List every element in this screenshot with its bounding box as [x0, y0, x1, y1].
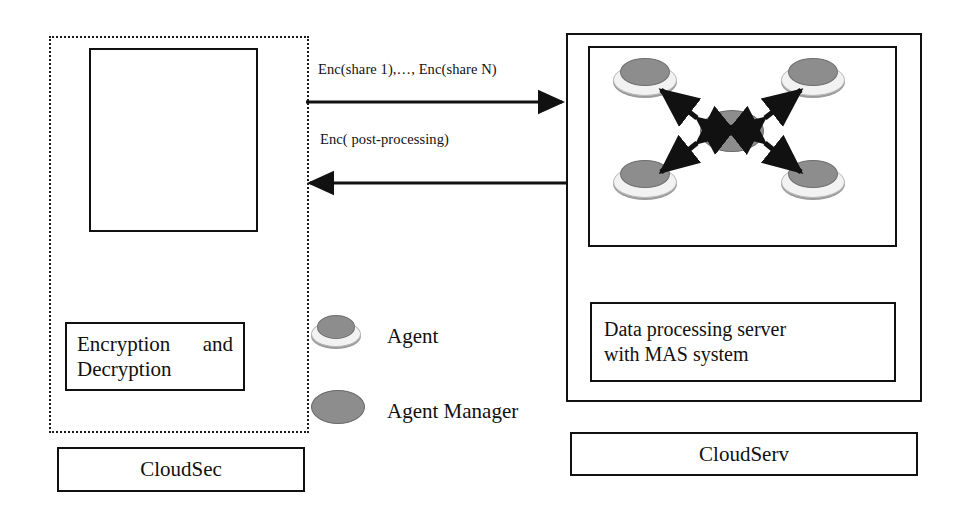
agent-icon-bottom-left	[613, 160, 675, 196]
cloudsec-client-box	[89, 48, 258, 232]
agent-top-disc	[788, 160, 837, 188]
agent-manager-disc	[311, 390, 365, 424]
cloudsec-caption-box: CloudSec	[57, 447, 305, 492]
encryption-decryption-line1: Encryption and	[77, 332, 233, 357]
data-processing-server-box: Data processing server with MAS system	[590, 302, 896, 382]
architecture-diagram: Encryption and Decryption CloudSec Data …	[0, 0, 959, 517]
cloudsec-caption-label: CloudSec	[59, 457, 303, 482]
encryption-decryption-box: Encryption and Decryption	[65, 322, 245, 391]
encryption-decryption-text: Encryption and Decryption	[67, 332, 243, 382]
cloudserv-caption-label: CloudServ	[572, 442, 916, 467]
agent-top-disc	[788, 58, 837, 86]
agent-icon-top-right	[781, 58, 843, 94]
agent-top-disc	[620, 160, 669, 188]
legend-agent-manager-icon	[311, 390, 363, 422]
agent-icon-top-left	[613, 58, 675, 94]
cloudserv-caption-box: CloudServ	[570, 432, 918, 476]
data-processing-server-line2: with MAS system	[604, 343, 748, 365]
encryption-decryption-line2: Decryption	[77, 357, 233, 382]
agent-top-disc	[317, 315, 355, 339]
legend-agent-icon	[311, 315, 359, 345]
arrow-label-to-server: Enc(share 1),…, Enc(share N)	[318, 61, 497, 78]
data-processing-server-text: Data processing server with MAS system	[592, 317, 894, 367]
agent-icon-bottom-right	[781, 160, 843, 196]
agent-top-disc	[620, 58, 669, 86]
data-processing-server-line1: Data processing server	[604, 318, 786, 340]
arrow-label-to-client: Enc( post-processing)	[320, 131, 449, 148]
legend-agent-manager-label: Agent Manager	[387, 399, 518, 424]
agent-manager-disc	[700, 110, 764, 152]
legend-agent-label: Agent	[387, 324, 438, 349]
agent-manager-icon-center	[700, 110, 762, 150]
